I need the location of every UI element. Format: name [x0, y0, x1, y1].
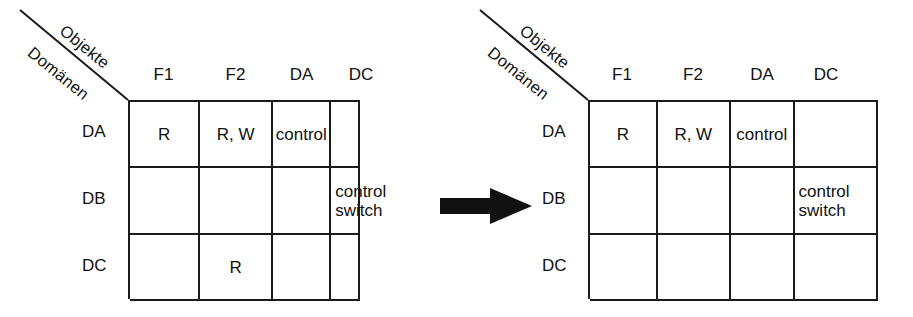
cell-dc-da[interactable] — [273, 235, 331, 301]
table-row — [590, 235, 878, 301]
column-header-da: DA — [272, 62, 331, 88]
matrix-grid-after: R R, W control — [588, 100, 878, 299]
cell-value: control — [273, 125, 329, 144]
cell-value: R — [130, 125, 198, 144]
column-header-dc: DC — [331, 62, 391, 88]
cell-dc-dc[interactable] — [331, 235, 360, 301]
column-header-da: DA — [730, 62, 794, 88]
column-header-dc: DC — [794, 62, 858, 88]
column-header-f2: F2 — [199, 62, 272, 88]
cell-db-f1[interactable] — [590, 168, 658, 235]
table-row: R — [130, 235, 360, 301]
row-header-db: DB — [82, 189, 126, 209]
cell-da-dc[interactable] — [795, 102, 878, 168]
cell-dc-f2[interactable]: R — [200, 235, 272, 301]
cell-dc-dc[interactable] — [795, 235, 878, 301]
cell-value: R, W — [200, 125, 270, 144]
row-header-da: DA — [82, 122, 126, 142]
cell-db-da[interactable] — [731, 168, 795, 235]
column-header-f2: F2 — [656, 62, 730, 88]
matrix-corner-header-before: Objekte Domänen — [18, 8, 130, 102]
matrix-grid-before: R R, W control — [128, 100, 360, 299]
matrix-corner-header-after: Objekte Domänen — [478, 8, 590, 102]
cell-db-f2[interactable] — [200, 168, 272, 235]
column-header-f1: F1 — [588, 62, 656, 88]
row-header-db: DB — [542, 189, 586, 209]
cell-da-f2[interactable]: R, W — [200, 102, 272, 168]
cell-dc-da[interactable] — [731, 235, 795, 301]
cell-db-da[interactable] — [273, 168, 331, 235]
cell-da-f1[interactable]: R — [590, 102, 658, 168]
cell-da-dc[interactable] — [331, 102, 360, 168]
cell-da-f1[interactable]: R — [130, 102, 200, 168]
cell-db-f1[interactable] — [130, 168, 200, 235]
table-row: control switch — [590, 168, 878, 235]
cell-value: R, W — [658, 125, 729, 144]
row-header-dc: DC — [542, 256, 586, 276]
cell-dc-f2[interactable] — [658, 235, 731, 301]
cell-da-da[interactable]: control — [731, 102, 795, 168]
cell-dc-f1[interactable] — [590, 235, 658, 301]
access-matrix-after: Objekte Domänen F1 F2 DA DC DA DB DC R R… — [460, 0, 860, 317]
cell-dc-f1[interactable] — [130, 235, 200, 301]
row-header-da: DA — [542, 122, 586, 142]
cell-da-f2[interactable]: R, W — [658, 102, 731, 168]
access-matrix-before: Objekte Domänen F1 F2 DA DC DA DB DC R R… — [0, 0, 400, 317]
cell-value: R — [200, 258, 270, 277]
cell-value: R — [590, 125, 656, 144]
cell-value: control switch — [331, 182, 358, 220]
cell-da-da[interactable]: control — [273, 102, 331, 168]
cell-value: control — [731, 125, 793, 144]
table-row: R R, W control — [130, 102, 360, 168]
table-row: control switch — [130, 168, 360, 235]
cell-value: control switch — [795, 182, 876, 220]
row-header-dc: DC — [82, 256, 126, 276]
access-matrix-figure: Objekte Domänen F1 F2 DA DC DA DB DC R R… — [0, 0, 913, 317]
cell-db-f2[interactable] — [658, 168, 731, 235]
cell-db-dc[interactable]: control switch — [331, 168, 360, 235]
column-header-f1: F1 — [128, 62, 199, 88]
cell-db-dc[interactable]: control switch — [795, 168, 878, 235]
table-row: R R, W control — [590, 102, 878, 168]
